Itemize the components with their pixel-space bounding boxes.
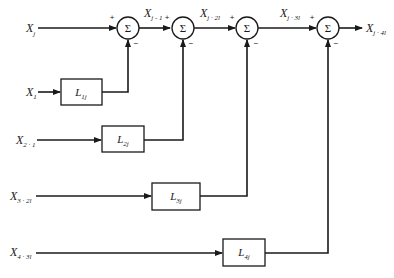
sigma-symbol: Σ [125, 22, 131, 34]
branch-4: X4 · 3l L4j [9, 40, 328, 266]
signal-label-xj-1: Xj - 1 [143, 6, 163, 22]
branch-1: X1 L1j [25, 40, 128, 105]
sigma-symbol: Σ [244, 22, 250, 34]
signal-label-xj: Xj [25, 21, 35, 38]
sigma-symbol: Σ [325, 22, 331, 34]
input-label-x1: X1 [25, 85, 37, 101]
summer-3: Σ + − [230, 13, 259, 48]
summer-2: Σ + − [165, 13, 194, 48]
edge-l1j-to-sum1 [102, 40, 128, 92]
block-diagram: Σ + − Σ + − Σ + − Σ + − Xj Xj - 1 Xj · 2… [0, 0, 394, 278]
signal-label-xj-2l: Xj · 2l [199, 6, 220, 22]
signal-label-xj-4l-output: Xj · 4l [365, 21, 386, 37]
input-label-x3-2l: X3 · 2l [9, 189, 32, 205]
sigma-symbol: Σ [180, 22, 186, 34]
minus-sign: − [134, 39, 139, 48]
plus-sign: + [110, 13, 115, 22]
summer-4: Σ + − [310, 13, 339, 48]
edge-l4j-to-sum4 [265, 40, 328, 253]
plus-sign: + [230, 13, 235, 22]
plus-sign: + [310, 13, 315, 22]
plus-sign: + [165, 13, 170, 22]
minus-sign: − [254, 39, 259, 48]
edge-l3j-to-sum3 [200, 40, 247, 196]
minus-sign: − [334, 39, 339, 48]
summer-1: Σ + − [110, 13, 139, 48]
input-label-x2-1: X2 · 1 [15, 133, 36, 149]
signal-label-xj-3l: Xj · 3l [279, 6, 300, 22]
block-l1j [61, 79, 102, 105]
minus-sign: − [189, 39, 194, 48]
input-label-x4-3l: X4 · 3l [9, 245, 32, 261]
edge-l2j-to-sum2 [144, 40, 183, 140]
